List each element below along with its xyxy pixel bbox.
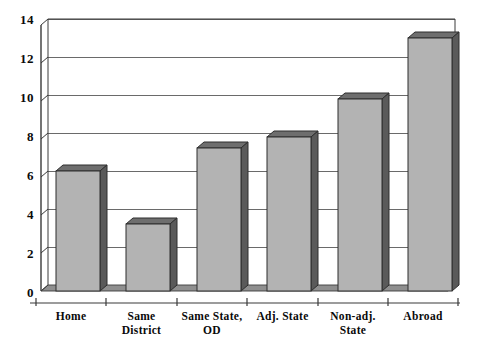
x-category-label-adj-state-line1: Adj. State [247, 310, 318, 324]
x-category-label-abroad-line1: Abroad [388, 310, 458, 324]
x-category-label-non-adj-state: Non-adj. State [318, 310, 388, 337]
x-category-label-adj-state: Adj. State [247, 310, 318, 324]
bar-chart: 14 12 10 8 6 4 2 0 [0, 0, 477, 347]
x-category-label-non-adj-state-line2: State [318, 324, 388, 338]
x-category-label-same-district-line2: District [106, 324, 177, 338]
x-category-label-same-district-line1: Same [106, 310, 177, 324]
x-category-label-same-state-od: Same State, OD [175, 310, 249, 337]
x-category-label-same-state-od-line1: Same State, [175, 310, 249, 324]
x-category-label-home: Home [36, 310, 106, 324]
x-category-label-home-line1: Home [36, 310, 106, 324]
x-category-label-same-district: Same District [106, 310, 177, 337]
x-axis-category-labels: Home Same District Same State, OD Adj. S… [0, 0, 477, 347]
x-category-label-abroad: Abroad [388, 310, 458, 324]
x-category-label-same-state-od-line2: OD [175, 324, 249, 338]
x-category-label-non-adj-state-line1: Non-adj. [318, 310, 388, 324]
